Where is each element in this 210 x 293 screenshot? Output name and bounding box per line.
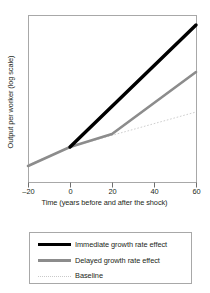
y-axis-title: Output per worker (log scale): [6, 17, 15, 187]
x-tick-label-2: 20: [100, 187, 126, 196]
plot-area: –20 0 20 40 60 Time (years before and af…: [0, 0, 209, 215]
legend-label-immediate: Immediate growth rate effect: [75, 240, 167, 249]
legend-label-baseline: Baseline: [75, 271, 103, 280]
x-tick-label-4: 60: [184, 187, 210, 196]
x-tick-label-3: 40: [142, 187, 168, 196]
chart-legend: Immediate growth rate effect Delayed gro…: [29, 232, 192, 284]
x-axis-title: Time (years before and after the shock): [0, 198, 209, 207]
x-tick-label-0: –20: [16, 187, 42, 196]
x-tick-label-1: 0: [58, 187, 84, 196]
legend-item-delayed: Delayed growth rate effect: [30, 253, 191, 268]
legend-item-baseline: Baseline: [30, 268, 191, 283]
legend-swatch-immediate-line-icon: [38, 239, 71, 251]
legend-swatch-delayed-line-icon: [38, 255, 71, 267]
figure-root: –20 0 20 40 60 Time (years before and af…: [0, 0, 209, 293]
legend-label-delayed: Delayed growth rate effect: [75, 256, 160, 265]
y-axis-title-wrap: Output per worker (log scale): [6, 17, 20, 187]
legend-item-immediate: Immediate growth rate effect: [30, 237, 191, 252]
plot-frame: [29, 16, 197, 183]
legend-swatch-baseline-line-icon: [38, 270, 71, 282]
chart-canvas: [0, 0, 209, 215]
